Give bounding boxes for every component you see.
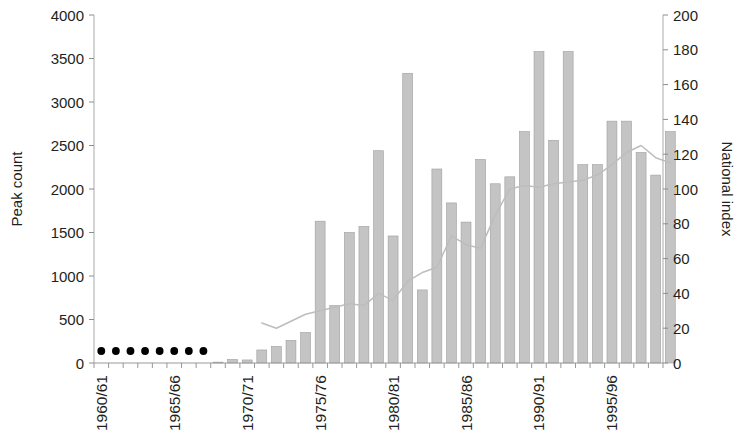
x-tick-label-1995/96: 1995/96 [603, 375, 620, 431]
y-tick-label-left: 3500 [51, 50, 84, 67]
x-tick-label-1970/71: 1970/71 [239, 375, 256, 431]
y-axis-left-title: Peak count [8, 151, 25, 227]
bar-1984/85 [446, 203, 456, 363]
bar-1994/95 [592, 165, 602, 363]
bar-1978/79 [359, 226, 369, 363]
y-tick-label-right: 100 [673, 181, 698, 198]
no-data-dot-1962/63 [127, 347, 135, 355]
bar-1989/90 [519, 132, 529, 363]
bar-1982/83 [417, 290, 427, 363]
x-tick-label-1990/91: 1990/91 [530, 375, 547, 431]
bar-1976/77 [330, 306, 340, 363]
y-tick-label-right: 160 [673, 76, 698, 93]
y-tick-label-right: 120 [673, 146, 698, 163]
bar-1979/80 [374, 151, 384, 363]
bar-1993/94 [578, 165, 588, 363]
bar-1991/92 [549, 140, 559, 363]
y-tick-label-right: 0 [673, 355, 681, 372]
bar-1987/88 [490, 184, 500, 363]
chart-container: 05001000150020002500300035004000 0204060… [0, 0, 738, 439]
bar-1977/78 [344, 233, 354, 364]
y-tick-label-left: 500 [59, 311, 84, 328]
bar-1998/99 [651, 175, 661, 363]
y-tick-label-right: 60 [673, 250, 690, 267]
y-tick-label-left: 1500 [51, 224, 84, 241]
bar-1972/73 [271, 346, 281, 363]
y-tick-label-right: 180 [673, 41, 698, 58]
bar-1981/82 [403, 73, 413, 363]
x-tick-label-1965/66: 1965/66 [166, 375, 183, 431]
y-tick-label-right: 80 [673, 215, 690, 232]
x-axis-ticks: 1960/611965/661970/711975/761980/811985/… [93, 363, 663, 431]
bar-1992/93 [563, 52, 573, 363]
x-tick-label-1975/76: 1975/76 [312, 375, 329, 431]
bar-1990/91 [534, 52, 544, 363]
y-tick-label-left: 2000 [51, 181, 84, 198]
no-data-dot-1966/67 [185, 347, 193, 355]
bar-1995/96 [607, 121, 617, 363]
x-tick-label-1980/81: 1980/81 [385, 375, 402, 431]
y-axis-left-ticks: 05001000150020002500300035004000 [51, 7, 94, 372]
no-data-dot-1967/68 [200, 347, 208, 355]
no-data-dot-1964/65 [156, 347, 164, 355]
y-tick-label-left: 3000 [51, 94, 84, 111]
y-tick-label-left: 2500 [51, 137, 84, 154]
x-tick-label-1985/86: 1985/86 [458, 375, 475, 431]
bar-1996/97 [622, 121, 632, 363]
y-axis-right-title: National index [719, 141, 736, 237]
bar-1971/72 [257, 350, 267, 363]
y-tick-label-right: 140 [673, 111, 698, 128]
y-tick-label-left: 0 [76, 355, 84, 372]
no-data-dot-1965/66 [170, 347, 178, 355]
bar-1986/87 [476, 159, 486, 363]
y-tick-label-left: 1000 [51, 268, 84, 285]
y-tick-label-right: 200 [673, 7, 698, 24]
no-data-dot-1963/64 [141, 347, 149, 355]
y-tick-label-left: 4000 [51, 7, 84, 24]
no-data-dot-1960/61 [97, 347, 105, 355]
bar-1975/76 [315, 221, 325, 363]
bar-1974/75 [301, 333, 311, 363]
bar-1997/98 [636, 152, 646, 363]
y-tick-label-right: 20 [673, 320, 690, 337]
x-tick-label-1960/61: 1960/61 [93, 375, 110, 431]
y-tick-label-right: 40 [673, 285, 690, 302]
bar-1988/89 [505, 177, 515, 363]
bar-1973/74 [286, 340, 296, 363]
peak-count-national-index-chart: 05001000150020002500300035004000 0204060… [0, 0, 738, 439]
no-data-dot-1961/62 [112, 347, 120, 355]
